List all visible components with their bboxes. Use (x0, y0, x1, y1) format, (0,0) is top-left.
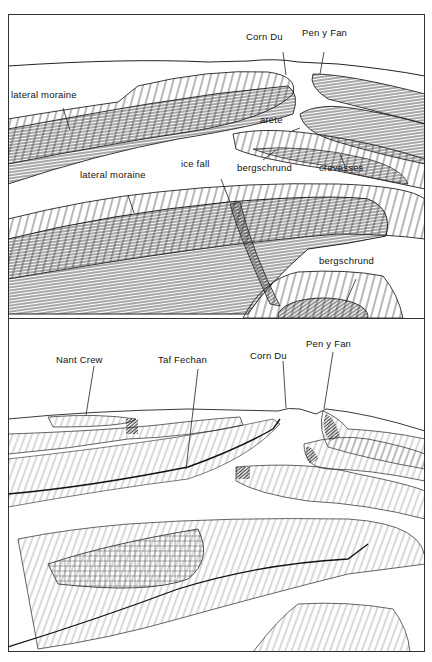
label-crevasses: crevasses (319, 162, 364, 173)
label-pen-y-fan-present: Pen y Fan (306, 338, 351, 349)
label-ice-fall: ice fall (181, 158, 210, 169)
label-lateral-moraine-lower: lateral moraine (80, 169, 146, 180)
panel-glacial: Corn Du Pen y Fan lateral moraine arete … (8, 14, 425, 318)
label-lateral-moraine-upper: lateral moraine (11, 89, 77, 100)
label-taf-fechan: Taf Fechan (158, 354, 207, 365)
label-bergschrund-lower: bergschrund (319, 255, 374, 266)
label-nant-crew: Nant Crew (56, 354, 103, 365)
panel-present: Nant Crew Taf Fechan Corn Du Pen y Fan (8, 319, 425, 652)
label-corn-du-present: Corn Du (250, 350, 287, 361)
label-pen-y-fan: Pen y Fan (302, 27, 347, 38)
label-arete: arete (260, 114, 283, 125)
label-corn-du: Corn Du (246, 31, 283, 42)
present-landscape-drawing (8, 319, 425, 652)
label-bergschrund-upper: bergschrund (237, 162, 292, 173)
